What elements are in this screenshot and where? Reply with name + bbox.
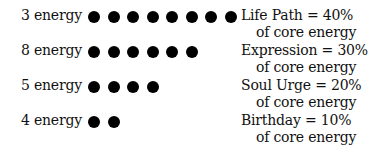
energy-dot-icon	[205, 11, 217, 23]
energy-dot-icon	[127, 46, 139, 58]
core-name-percent: Expression = 30%	[241, 42, 368, 58]
energy-label: 8 energy	[21, 42, 82, 58]
energy-dot-icon	[88, 81, 100, 93]
energy-dot-icon	[88, 11, 100, 23]
energy-dot-icon	[186, 46, 198, 58]
dot-group	[88, 81, 166, 93]
core-description: Soul Urge = 20% of core energy	[241, 77, 361, 111]
energy-label: 5 energy	[21, 77, 82, 93]
core-description: Life Path = 40% of core energy	[241, 7, 356, 41]
energy-dot-icon	[108, 81, 120, 93]
energy-dot-icon	[147, 11, 159, 23]
core-name-percent: Soul Urge = 20%	[241, 77, 361, 93]
core-suffix: of core energy	[241, 59, 368, 76]
energy-dot-icon	[166, 11, 178, 23]
energy-dot-icon	[88, 46, 100, 58]
energy-label: 3 energy	[21, 7, 82, 23]
energy-dot-icon	[88, 116, 100, 128]
energy-dot-icon	[225, 11, 237, 23]
dot-group	[88, 116, 127, 128]
energy-dot-icon	[108, 46, 120, 58]
energy-dot-icon	[127, 11, 139, 23]
core-description: Expression = 30% of core energy	[241, 42, 368, 76]
energy-dot-icon	[147, 81, 159, 93]
core-description: Birthday = 10% of core energy	[241, 112, 356, 146]
energy-label: 4 energy	[21, 112, 82, 128]
energy-dot-icon	[108, 116, 120, 128]
energy-dot-icon	[147, 46, 159, 58]
energy-dot-icon	[186, 11, 198, 23]
core-name-percent: Birthday = 10%	[241, 112, 351, 128]
core-suffix: of core energy	[241, 94, 361, 111]
core-name-percent: Life Path = 40%	[241, 7, 353, 23]
core-suffix: of core energy	[241, 129, 356, 146]
energy-dot-icon	[127, 81, 139, 93]
dot-group	[88, 11, 244, 23]
dot-group	[88, 46, 205, 58]
core-suffix: of core energy	[241, 24, 356, 41]
energy-dot-icon	[166, 46, 178, 58]
energy-dot-icon	[108, 11, 120, 23]
